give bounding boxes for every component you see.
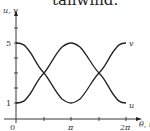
chart: u, v 5 1 0 π 2π θ, t v u [0,0,150,131]
x-tick-label-pi: π [67,123,74,131]
x-tick-label-2pi: 2π [119,123,131,131]
x-tick-label-0: 0 [10,123,15,131]
y-tick-label-1: 1 [6,99,11,108]
y-tick-label-5: 5 [6,39,11,48]
curve-label-u: u [129,101,134,110]
curve-label-v: v [129,39,134,48]
x-axis-label: θ, t [139,120,150,129]
curve-v [16,43,126,103]
y-axis-label: u, v [3,6,18,15]
curve-u [16,43,126,103]
